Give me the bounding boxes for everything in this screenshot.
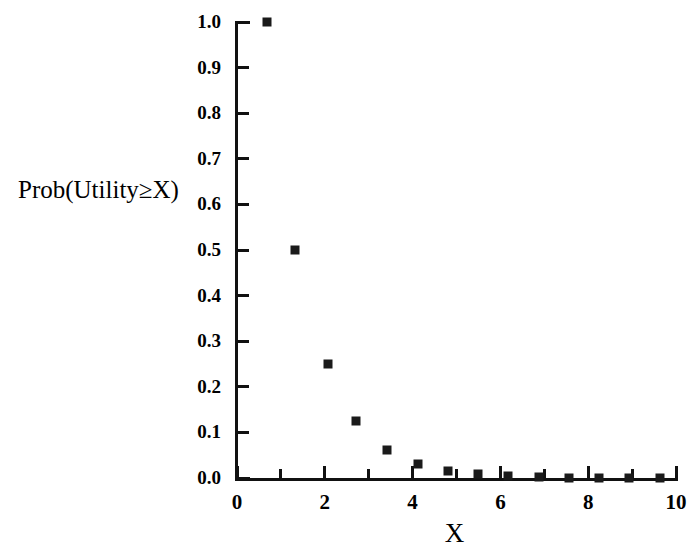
data-point [564, 473, 573, 482]
x-tick [323, 466, 326, 479]
y-tick-label: 0.7 [197, 148, 221, 170]
y-tick [238, 203, 249, 206]
x-tick [587, 466, 590, 479]
data-point [625, 473, 634, 482]
y-tick [238, 477, 250, 480]
x-tick [675, 466, 678, 479]
data-point [323, 360, 332, 369]
x-tick-label: 0 [232, 490, 243, 515]
y-tick-label: 1.0 [197, 11, 221, 33]
data-point [655, 473, 664, 482]
data-point [534, 473, 543, 482]
y-tick [238, 294, 249, 297]
data-point [413, 459, 422, 468]
y-tick-label: 0.3 [197, 330, 221, 352]
x-tick-label: 4 [407, 490, 418, 515]
x-tick-label: 10 [666, 490, 687, 515]
y-tick-label: 0.2 [197, 376, 221, 398]
data-point [262, 18, 271, 27]
y-tick-label: 0.8 [197, 102, 221, 124]
x-tick-label: 8 [583, 490, 594, 515]
y-tick-label: 0.1 [197, 421, 221, 443]
x-tick-label: 6 [495, 490, 506, 515]
x-axis-title-text: X [445, 518, 465, 548]
y-axis-title: Prob(Utility≥X) [18, 176, 179, 204]
y-tick [238, 112, 249, 115]
y-tick-label: 0.5 [197, 239, 221, 261]
y-tick [238, 249, 249, 252]
data-point [383, 445, 392, 454]
x-tick [236, 466, 239, 479]
x-tick [499, 466, 502, 479]
x-axis-title: X [0, 518, 699, 549]
y-tick [238, 157, 249, 160]
y-tick [238, 21, 250, 24]
x-tick-label: 2 [320, 490, 331, 515]
y-tick [238, 66, 249, 69]
x-minor-tick [455, 469, 458, 479]
x-minor-tick [279, 469, 282, 479]
y-tick [238, 340, 249, 343]
data-point [474, 470, 483, 479]
data-point [504, 472, 513, 481]
chart-figure: Prob(Utility≥X) 0.00.10.20.30.40.50.60.7… [0, 0, 699, 560]
x-minor-tick [543, 469, 546, 479]
data-point [351, 417, 360, 426]
y-tick-label: 0.9 [197, 57, 221, 79]
data-point [443, 466, 452, 475]
plot-area: 0.00.10.20.30.40.50.60.70.80.91.0 024681… [237, 22, 676, 478]
y-tick-label: 0.6 [197, 193, 221, 215]
data-point [595, 473, 604, 482]
y-tick [238, 431, 249, 434]
data-point [290, 246, 299, 255]
y-tick-label: 0.4 [197, 285, 221, 307]
y-tick [238, 385, 249, 388]
x-minor-tick [367, 469, 370, 479]
y-tick-label: 0.0 [197, 467, 221, 489]
